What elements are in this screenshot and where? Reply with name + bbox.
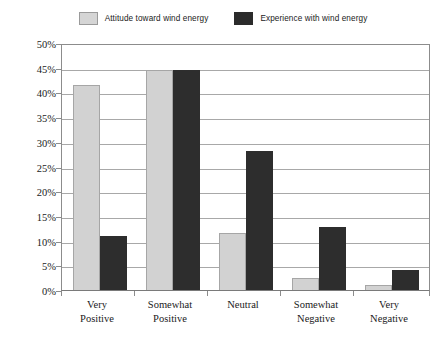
legend-item-attitude: Attitude toward wind energy	[79, 12, 209, 25]
x-category-line2: Positive	[122, 312, 218, 326]
bar-group-very-negative	[362, 45, 430, 290]
x-tick-mark	[207, 291, 208, 296]
bar-attitude-somewhat-positive	[146, 70, 173, 290]
bar-chart: Attitude toward wind energy Experience w…	[0, 0, 446, 346]
bar-attitude-somewhat-negative	[292, 278, 319, 290]
bar-group-somewhat-negative	[289, 45, 357, 290]
y-tick-label: 20%	[4, 187, 56, 198]
bar-group-neutral	[216, 45, 284, 290]
y-tick-label: 45%	[4, 63, 56, 74]
y-tick-label: 30%	[4, 137, 56, 148]
x-tick-mark	[61, 291, 62, 296]
x-category-line2: Negative	[341, 312, 437, 326]
light-gray-swatch-icon	[79, 12, 98, 25]
y-tick-label: 40%	[4, 88, 56, 99]
bar-attitude-neutral	[219, 233, 246, 290]
dark-swatch-icon	[234, 12, 253, 25]
bar-experience-somewhat-negative	[319, 227, 346, 290]
bar-attitude-very-negative	[365, 285, 392, 290]
x-category-line1: Very	[341, 298, 437, 312]
y-tick-label: 10%	[4, 236, 56, 247]
legend-label-experience: Experience with wind energy	[260, 14, 367, 23]
y-tick-label: 15%	[4, 211, 56, 222]
y-axis: 50% 45% 40% 35% 30% 25% 20% 15% 10% 5% 0…	[0, 0, 56, 346]
y-tick-label: 25%	[4, 162, 56, 173]
y-tick-label: 5%	[4, 261, 56, 272]
bar-group-somewhat-positive	[143, 45, 211, 290]
x-category-very-negative: Very Negative	[341, 298, 437, 325]
y-tick-label: 0%	[4, 286, 56, 297]
x-tick-mark	[353, 291, 354, 296]
bar-experience-neutral	[246, 151, 273, 290]
bar-experience-somewhat-positive	[173, 70, 200, 290]
bar-group-very-positive	[70, 45, 138, 290]
y-tick-label: 50%	[4, 39, 56, 50]
legend-label-attitude: Attitude toward wind energy	[105, 14, 209, 23]
legend-item-experience: Experience with wind energy	[234, 12, 367, 25]
bar-experience-very-positive	[100, 236, 127, 290]
y-tick-label: 35%	[4, 113, 56, 124]
x-tick-mark	[280, 291, 281, 296]
bar-attitude-very-positive	[73, 85, 100, 290]
chart-legend: Attitude toward wind energy Experience w…	[0, 12, 446, 25]
bar-experience-very-negative	[392, 270, 419, 290]
plot-area	[61, 44, 430, 291]
x-tick-mark	[429, 291, 430, 296]
x-tick-mark	[134, 291, 135, 296]
